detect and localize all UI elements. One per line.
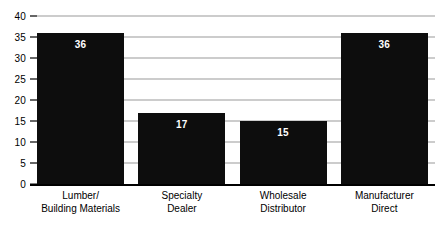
y-tick-mark (30, 142, 37, 143)
category-label-line: Manufacturer (334, 190, 435, 203)
bar-value-label: 17 (138, 119, 225, 130)
category-label-line: Specialty (131, 190, 232, 203)
bar[interactable]: 36 (341, 33, 428, 184)
y-tick-label: 5 (20, 158, 26, 169)
category-label-line: Building Materials (30, 203, 131, 216)
y-axis: 40 35 30 25 20 15 10 5 0 (0, 16, 26, 184)
plot-area: 36171536 (30, 16, 435, 184)
category-label-line: Direct (334, 203, 435, 216)
y-tick-mark (30, 16, 37, 17)
y-tick-label: 35 (14, 32, 26, 43)
y-tick-label: 25 (14, 74, 26, 85)
bar-value-label: 36 (341, 39, 428, 50)
category-label: WholesaleDistributor (233, 190, 334, 215)
y-tick-label: 40 (14, 11, 26, 22)
y-tick-mark (30, 100, 37, 101)
y-tick-mark (30, 79, 37, 80)
x-axis-baseline (30, 184, 435, 186)
category-label: ManufacturerDirect (334, 190, 435, 215)
y-tick-label: 30 (14, 53, 26, 64)
bar-value-label: 36 (37, 39, 124, 50)
bar[interactable]: 15 (240, 121, 327, 184)
y-tick-label: 20 (14, 95, 26, 106)
bar[interactable]: 36 (37, 33, 124, 184)
y-tick-mark (30, 184, 37, 185)
y-tick-label: 0 (20, 179, 26, 190)
bar-value-label: 15 (240, 127, 327, 138)
category-label-line: Distributor (233, 203, 334, 216)
category-label: SpecialtyDealer (131, 190, 232, 215)
category-label: Lumber/Building Materials (30, 190, 131, 215)
bar-chart: 40 35 30 25 20 15 10 5 0 36171536 Lumber… (0, 0, 439, 231)
y-tick-mark (30, 163, 37, 164)
category-label-line: Wholesale (233, 190, 334, 203)
y-tick-label: 10 (14, 137, 26, 148)
y-tick-mark (30, 58, 37, 59)
y-tick-mark (30, 37, 37, 38)
category-label-line: Dealer (131, 203, 232, 216)
category-label-line: Lumber/ (30, 190, 131, 203)
y-tick-mark (30, 121, 37, 122)
y-tick-label: 15 (14, 116, 26, 127)
bars-layer: 36171536 (30, 16, 435, 184)
category-labels: Lumber/Building MaterialsSpecialtyDealer… (30, 190, 435, 230)
bar[interactable]: 17 (138, 113, 225, 184)
